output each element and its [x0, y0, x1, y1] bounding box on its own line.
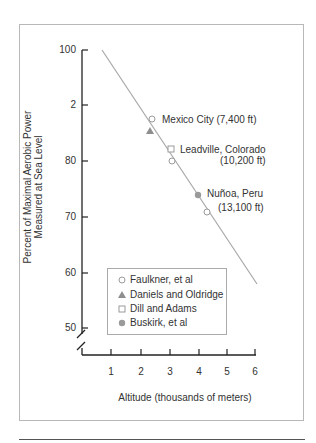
x-axis-title: Altitude (thousands of meters) [100, 392, 270, 403]
filled-circle-icon [118, 319, 126, 327]
dill-point [168, 146, 174, 152]
annotation-mexico-city: Mexico City (7,400 ft) [162, 114, 256, 125]
annotation-leadville-alt: (10,200 ft) [220, 155, 266, 166]
axis-break-mark [77, 342, 85, 350]
y-tick-label: 50 [50, 322, 76, 333]
faulkner-point [149, 116, 155, 122]
faulkner-point [169, 158, 175, 164]
annotation-nunoa: Nuñoa, Peru [207, 188, 263, 199]
open-square-icon [118, 305, 126, 313]
trend-line [102, 50, 257, 284]
y-tick-label: 70 [50, 211, 76, 222]
y-tick-label: 60 [50, 267, 76, 278]
chart-plot [0, 0, 316, 443]
annotation-leadville: Leadville, Colorado [180, 144, 266, 155]
y-ticks [82, 50, 88, 328]
faulkner-point [204, 209, 210, 215]
filled-triangle-icon [118, 291, 126, 299]
buskirk-point [195, 192, 201, 198]
x-tick-label: 1 [105, 366, 117, 377]
y-tick-label: 80 [50, 155, 76, 166]
y-tick-label: 2 [50, 99, 76, 110]
y-axis-title-line2: Measured at Sea Level [33, 92, 44, 282]
daniels-point [146, 127, 154, 134]
legend: Faulkner, et al Daniels and Oldridge Dil… [107, 268, 227, 335]
x-ticks [111, 349, 255, 355]
x-tick-label: 3 [164, 366, 176, 377]
x-tick-label: 5 [221, 366, 233, 377]
y-axis-title-line1: Percent of Maximal Aerobic Power [22, 92, 33, 282]
x-tick-label: 4 [193, 366, 205, 377]
x-tick-label: 6 [249, 366, 261, 377]
y-tick-label: 100 [50, 44, 76, 55]
open-circle-icon [118, 276, 126, 284]
y-axis-title: Percent of Maximal Aerobic Power Measure… [22, 92, 44, 282]
annotation-nunoa-alt: (13,100 ft) [218, 202, 264, 213]
x-tick-label: 2 [135, 366, 147, 377]
axis-break-mark [77, 330, 85, 338]
